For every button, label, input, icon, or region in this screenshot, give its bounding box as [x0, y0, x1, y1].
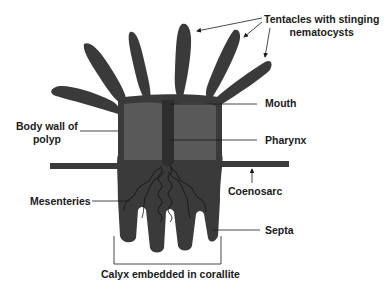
coenosarc-bar — [50, 163, 122, 169]
label-tentacles: Tentacles with stinging nematocysts — [264, 13, 379, 39]
label-coenosarc: Coenosarc — [228, 185, 282, 198]
label-mouth: Mouth — [265, 97, 297, 110]
label-tentacles-line1: Tentacles with stinging — [264, 13, 379, 26]
label-pharynx: Pharynx — [265, 134, 306, 147]
label-septa: Septa — [265, 224, 294, 237]
tentacle-3 — [129, 32, 151, 100]
label-body-wall-line2: polyp — [16, 133, 78, 146]
tentacle-arrow-1 — [197, 18, 262, 31]
tentacle-4 — [175, 24, 191, 100]
body-inner-left — [124, 103, 164, 161]
coral-polyp-diagram: Tentacles with stinging nematocysts Mout… — [0, 0, 390, 291]
label-mesenteries: Mesenteries — [30, 195, 91, 208]
coenosarc-bar-right — [218, 161, 289, 167]
body-inner-right — [172, 103, 216, 160]
label-body-wall: Body wall of polyp — [16, 120, 78, 146]
tentacle-arrow-2 — [244, 22, 262, 37]
label-calyx: Calyx embedded in corallite — [101, 268, 240, 281]
pharynx — [162, 100, 174, 167]
label-tentacles-line2: nematocysts — [264, 26, 379, 39]
label-body-wall-line1: Body wall of — [16, 120, 78, 133]
